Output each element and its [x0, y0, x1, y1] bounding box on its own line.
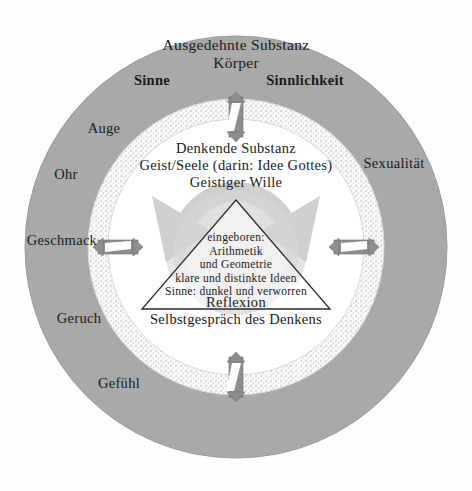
outer-ring-heading-sinnlichkeit: Sinnlichkeit: [266, 72, 344, 89]
inner-title-line-2: Geist/Seele (darin: Idee Gottes): [140, 157, 333, 174]
inner-title-line-1: Denkende Substanz: [140, 140, 333, 157]
outer-ring-title-line-1: Ausgedehnte Substanz: [163, 36, 310, 54]
ring-arrow-left: [93, 238, 143, 256]
innate-ideas-text: eingeboren: Arithmetik und Geometrie kla…: [165, 231, 307, 299]
innate-ideas-line-1: eingeboren:: [165, 231, 307, 245]
innate-ideas-line-3: und Geometrie: [165, 258, 307, 272]
sense-label-auge: Auge: [88, 120, 121, 137]
inner-title-line-3: Geistiger Wille: [140, 174, 333, 191]
diagram-canvas: Ausgedehnte Substanz Körper Sinne Sinnli…: [0, 0, 472, 491]
ring-arrow-top: [226, 92, 245, 142]
outer-ring-title: Ausgedehnte Substanz Körper: [163, 36, 310, 73]
outer-ring-title-line-2: Körper: [163, 54, 310, 72]
sense-label-ohr: Ohr: [54, 166, 77, 183]
innate-ideas-line-2: Arithmetik: [165, 245, 307, 259]
reflexion-text: Reflexion Selbstgespräch des Denkens: [150, 294, 322, 328]
sense-label-geruch: Geruch: [57, 310, 101, 327]
outer-ring-label-sexualitaet: Sexualität: [364, 155, 425, 172]
reflexion-line-1: Reflexion: [150, 294, 322, 311]
reflexion-line-2: Selbstgespräch des Denkens: [150, 311, 322, 328]
outer-ring-heading-sinne: Sinne: [134, 72, 170, 89]
sense-label-geschmack: Geschmack: [27, 232, 97, 249]
sense-label-gefuehl: Gefühl: [98, 375, 140, 392]
innate-ideas-line-4: klare und distinkte Ideen: [165, 272, 307, 286]
inner-circle-title: Denkende Substanz Geist/Seele (darin: Id…: [140, 140, 333, 191]
ring-arrow-bottom: [226, 352, 245, 402]
ring-arrow-right: [329, 238, 379, 256]
